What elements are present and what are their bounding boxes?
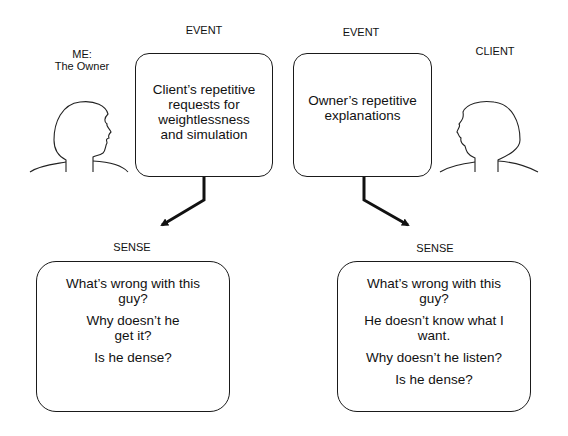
client-label: CLIENT (460, 45, 530, 57)
event-left-box: Client’s repetitive requests for weightl… (135, 53, 273, 177)
event-right-box: Owner’s repetitive explanations (293, 53, 432, 177)
sense-left-box: What’s wrong with this guy? Why doesn’t … (36, 261, 230, 412)
arrow-left (162, 177, 204, 225)
sense-left-item: Is he dense? (94, 350, 171, 365)
event-right-line: Owner’s repetitive (308, 93, 416, 108)
owner-label-line1: ME: (44, 48, 120, 60)
event-left-line: requests for (168, 97, 239, 112)
owner-label-line2: The Owner (44, 60, 120, 72)
sense-right-heading: SENSE (405, 242, 465, 254)
sense-right-box: What’s wrong with this guy? He doesn’t k… (337, 261, 531, 412)
event-left-heading: EVENT (174, 24, 234, 36)
arrow-right (364, 177, 408, 225)
sense-right-item: He doesn’t know what I want. (354, 313, 514, 343)
sense-right-item: Why doesn’t he listen? (366, 350, 502, 365)
owner-label: ME: The Owner (44, 48, 120, 72)
event-right-line: explanations (325, 108, 401, 123)
event-left-line: and simulation (160, 127, 247, 142)
sense-left-heading: SENSE (102, 241, 162, 253)
owner-head-icon (30, 102, 128, 172)
event-left-line: Client’s repetitive (153, 82, 256, 97)
event-left-line: weightlessness (158, 112, 250, 127)
event-right-heading: EVENT (331, 26, 391, 38)
sense-left-item: Why doesn’t he get it? (59, 313, 207, 343)
sense-left-item: What’s wrong with this guy? (59, 276, 207, 306)
sense-right-item: Is he dense? (395, 372, 472, 387)
client-head-icon (440, 101, 538, 172)
sense-right-item: What’s wrong with this guy? (354, 276, 514, 306)
